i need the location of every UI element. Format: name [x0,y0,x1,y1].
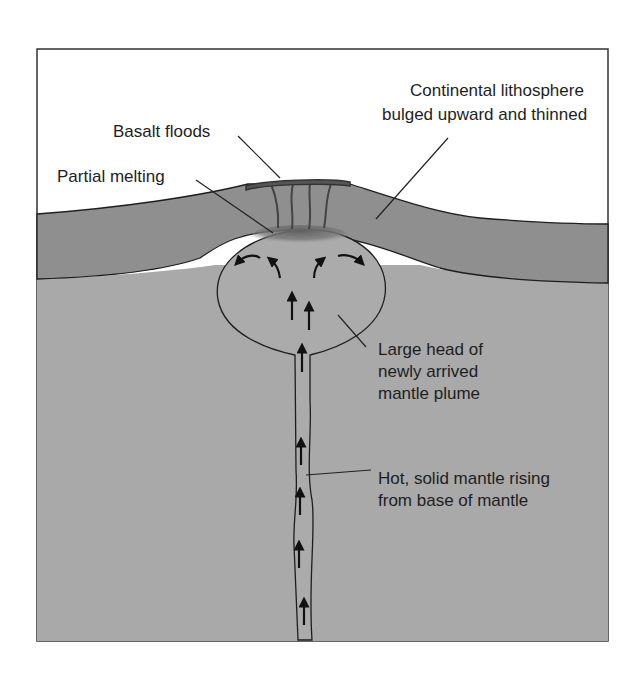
label-plume-head-line2: newly arrived [378,362,478,381]
label-plume-tail-line1: Hot, solid mantle rising [378,469,550,488]
label-basalt-floods: Basalt floods [113,122,210,141]
label-plume-head-line3: mantle plume [378,384,480,403]
label-plume-head-line1: Large head of [378,340,483,359]
label-partial-melting: Partial melting [57,167,165,186]
label-plume-tail-line2: from base of mantle [378,491,528,510]
label-lithosphere-line2: bulged upward and thinned [382,105,587,124]
label-lithosphere-line1: Continental lithosphere [410,81,584,100]
mantle-plume-diagram: Continental lithosphere bulged upward an… [0,0,644,678]
